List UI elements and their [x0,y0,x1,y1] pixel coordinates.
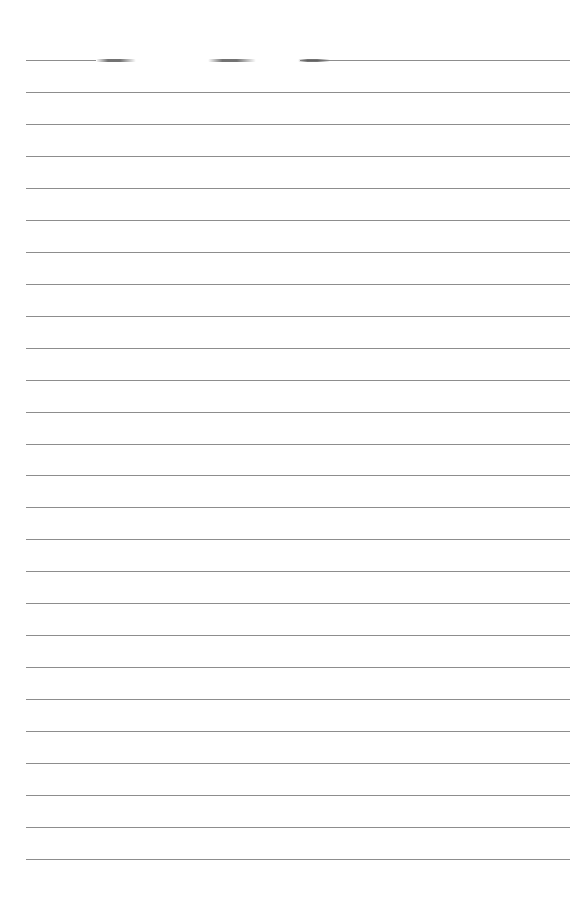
scan-smudge [208,59,256,62]
ruled-line [26,667,570,668]
ruled-line [26,188,570,189]
ruled-line [26,92,570,93]
ruled-line [26,444,570,445]
scan-smudge [96,59,136,62]
ruled-line [26,124,570,125]
ruled-line [26,635,570,636]
ruled-line [26,252,570,253]
ruled-line-segment [300,60,570,61]
ruled-line [26,284,570,285]
ruled-line [26,316,570,317]
ruled-line [26,763,570,764]
ruled-line [26,731,570,732]
ruled-line [26,156,570,157]
scan-smudge [298,59,330,62]
ruled-line [26,507,570,508]
ruled-line [26,827,570,828]
ruled-line [26,220,570,221]
ruled-line [26,699,570,700]
ruled-line [26,571,570,572]
ruled-line [26,348,570,349]
ruled-line [26,539,570,540]
ruled-line [26,475,570,476]
ruled-line-segment [26,60,96,61]
ruled-line [26,603,570,604]
ruled-line [26,859,570,860]
lined-paper-page [0,0,581,901]
ruled-line [26,795,570,796]
ruled-line [26,412,570,413]
ruled-line [26,380,570,381]
